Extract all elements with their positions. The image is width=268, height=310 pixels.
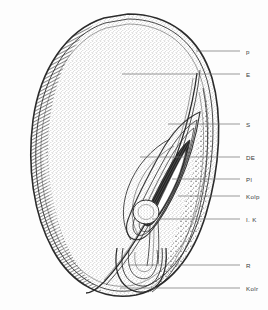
label-text-Pl: Pl: [246, 176, 252, 183]
label-text-Kolr: Kolr: [246, 285, 258, 292]
label-text-DE: DE: [246, 154, 255, 161]
label-text-IK: I. K: [246, 216, 257, 223]
label-text-p: p: [246, 48, 250, 55]
label-text-S: S: [246, 121, 250, 128]
label-text-Kolp: Kolp: [246, 193, 260, 200]
seed-anatomy-figure: pESDEPlKolpI. KRKolr: [0, 0, 268, 310]
label-text-R: R: [246, 262, 251, 269]
seed-diagram-svg: pESDEPlKolpI. KRKolr: [0, 0, 268, 310]
label-text-E: E: [246, 71, 250, 78]
embryonic-node: [133, 200, 159, 224]
